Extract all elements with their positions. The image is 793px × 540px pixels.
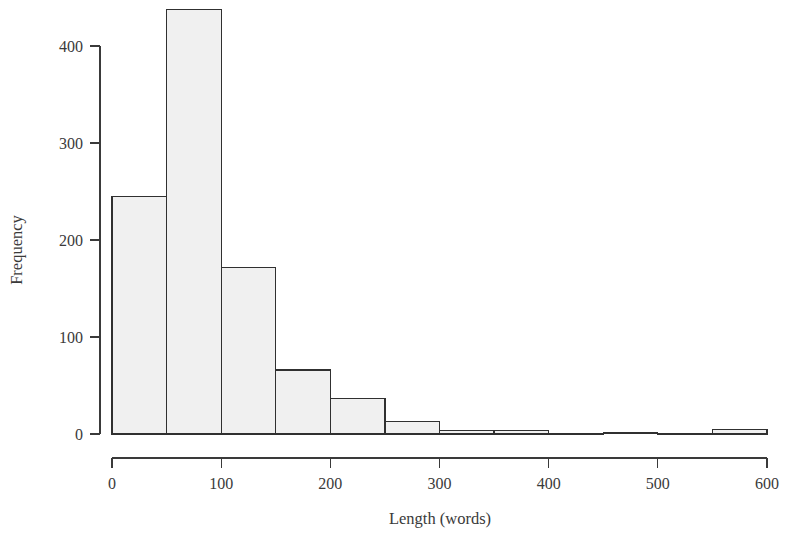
histogram-bar: [440, 430, 495, 434]
y-axis-tick-label: 400: [59, 38, 83, 55]
histogram-bar: [167, 9, 222, 434]
x-axis-tick-label: 0: [108, 475, 116, 492]
histogram-bar: [712, 429, 767, 434]
histogram-bar: [276, 370, 331, 434]
histogram-bar: [112, 196, 167, 434]
histogram-bar: [494, 430, 549, 434]
histogram-bar: [221, 267, 276, 434]
x-axis-title: Length (words): [389, 509, 491, 528]
histogram-bar: [603, 433, 658, 434]
y-axis-title: Frequency: [7, 214, 26, 284]
x-axis-tick-label: 600: [755, 475, 779, 492]
y-axis-tick-label: 100: [59, 329, 83, 346]
y-axis-tick-label: 300: [59, 135, 83, 152]
y-axis-tick-label: 0: [75, 426, 83, 443]
histogram-plot-area: 0100200300400 0100200300400500600 Freque…: [0, 0, 793, 540]
histogram-bar: [549, 434, 604, 435]
x-axis-tick-label: 500: [646, 475, 670, 492]
x-axis-tick-label: 100: [209, 475, 233, 492]
y-axis-tick-label: 200: [59, 232, 83, 249]
histogram-bar: [658, 434, 713, 435]
x-axis-tick-label: 300: [428, 475, 452, 492]
x-axis-tick-label: 200: [318, 475, 342, 492]
histogram-figure: 0100200300400 0100200300400500600 Freque…: [0, 0, 793, 540]
x-axis-tick-label: 400: [537, 475, 561, 492]
histogram-bar: [330, 398, 385, 434]
histogram-bar: [385, 421, 440, 434]
